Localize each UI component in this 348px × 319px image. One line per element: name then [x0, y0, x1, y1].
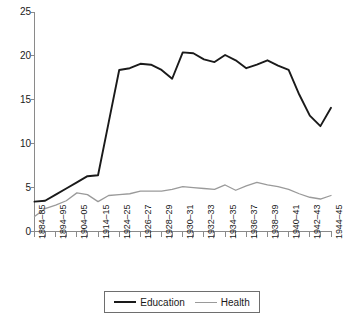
legend-swatch-education-icon: [114, 301, 136, 303]
x-tick-label: 1884–85: [38, 204, 47, 238]
x-tick-label: 1894–95: [59, 204, 68, 238]
x-tick-label: 1932–33: [207, 204, 216, 238]
legend-label-education: Education: [140, 297, 184, 308]
x-tick-label: 1940–41: [292, 204, 301, 238]
line-chart: 0510152025 1884–851894–951904–051914–151…: [0, 0, 348, 319]
x-tick-label: 1942–43: [313, 204, 322, 238]
legend-swatch-health-icon: [195, 302, 217, 303]
x-tick-label: 1926–27: [144, 204, 153, 238]
x-tick-label: 1938–39: [271, 204, 280, 238]
x-axis-tick-labels: 1884–851894–951904–051914–151924–251926–…: [0, 0, 348, 319]
legend-item-education: Education: [114, 297, 184, 308]
x-tick-label: 1924–25: [123, 204, 132, 238]
x-tick-label: 1930–31: [186, 204, 195, 238]
x-tick-label: 1928–29: [165, 204, 174, 238]
x-tick-label: 1944–45: [335, 204, 344, 238]
legend-item-health: Health: [195, 297, 250, 308]
chart-legend: Education Health: [104, 291, 260, 313]
legend-label-health: Health: [221, 297, 250, 308]
x-tick-label: 1936–37: [250, 204, 259, 238]
x-tick-label: 1914–15: [102, 204, 111, 238]
x-tick-label: 1934–35: [229, 204, 238, 238]
x-tick-label: 1904–05: [80, 204, 89, 238]
